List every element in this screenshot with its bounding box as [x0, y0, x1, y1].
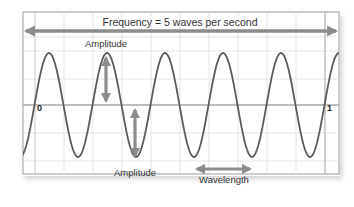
axis-label-start: 0 [37, 103, 42, 113]
axis-label-end: 1 [327, 103, 332, 113]
wavelength-label: Wavelength [199, 174, 249, 185]
wave-diagram: Frequency = 5 waves per second Amplitude… [0, 0, 354, 207]
frequency-title: Frequency = 5 waves per second [103, 16, 258, 28]
amplitude-label-top: Amplitude [85, 38, 127, 49]
amplitude-label-bottom: Amplitude [114, 167, 156, 178]
plot-frame [23, 12, 339, 174]
